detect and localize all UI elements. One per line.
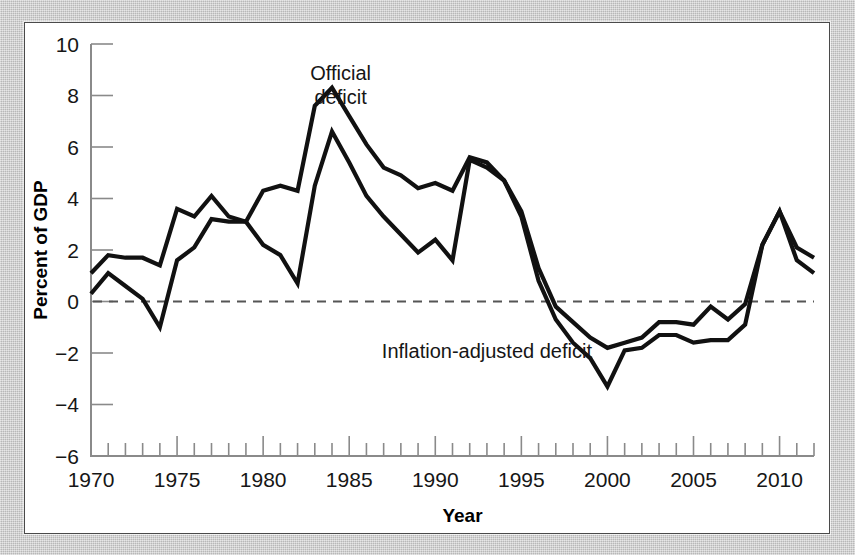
y-tick-label: 4	[67, 187, 79, 210]
y-tick-label: 10	[56, 33, 79, 56]
x-axis-tick-labels: 197019751980198519901995200020052010	[68, 468, 803, 491]
official-deficit-line	[91, 88, 814, 348]
x-tick-label: 2000	[584, 468, 631, 491]
y-axis-ticks	[91, 44, 113, 456]
x-tick-label: 1995	[498, 468, 545, 491]
y-tick-label: −4	[55, 393, 79, 416]
x-tick-label: 2010	[756, 468, 803, 491]
deficit-line-chart: 1086420−2−4−6 19701975198019851990199520…	[25, 23, 828, 532]
x-axis-title: Year	[442, 505, 483, 526]
y-tick-label: −6	[55, 445, 79, 468]
y-axis-tick-labels: 1086420−2−4−6	[55, 33, 79, 468]
x-tick-label: 2005	[670, 468, 717, 491]
x-axis-ticks	[91, 436, 814, 456]
y-tick-label: −2	[55, 342, 79, 365]
screenshot-root: 1086420−2−4−6 19701975198019851990199520…	[0, 0, 855, 555]
x-tick-label: 1990	[412, 468, 459, 491]
y-axis-title: Percent of GDP	[30, 180, 51, 320]
x-tick-label: 1975	[154, 468, 201, 491]
x-tick-label: 1985	[326, 468, 373, 491]
y-tick-label: 2	[67, 239, 79, 262]
y-tick-label: 0	[67, 290, 79, 313]
official-deficit-label-line1: Official	[310, 62, 371, 84]
x-tick-label: 1980	[240, 468, 287, 491]
chart-panel: 1086420−2−4−6 19701975198019851990199520…	[24, 22, 830, 534]
inflation-adjusted-deficit-label: Inflation-adjusted deficit	[382, 340, 593, 362]
y-tick-label: 6	[67, 136, 79, 159]
official-deficit-label-line2: deficit	[314, 86, 367, 108]
x-tick-label: 1970	[68, 468, 115, 491]
y-tick-label: 8	[67, 84, 79, 107]
